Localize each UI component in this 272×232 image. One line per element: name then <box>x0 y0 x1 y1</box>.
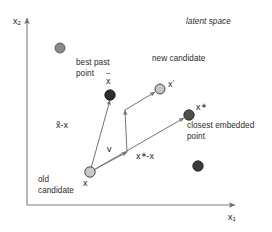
latent-space-diagram: x2 x1 latent space new candidate best pa… <box>0 0 272 232</box>
label-v: v <box>107 144 112 154</box>
point-x-old-candidate <box>85 167 95 177</box>
label-x: x <box>83 178 88 188</box>
annotation-best-past-point: best past point <box>76 58 110 79</box>
vector-x-tilde-minus-x <box>90 100 110 172</box>
label-x-star-minus-x: x∗-x <box>136 151 154 161</box>
annotation-new-candidate: new candidate <box>152 54 205 65</box>
label-x-tilde: ~x <box>106 76 111 86</box>
point-x-prime-new-candidate <box>155 84 165 94</box>
annotation-old-candidate: old candidate <box>38 175 74 196</box>
label-x-tilde-minus-x: x̃-x <box>56 120 68 130</box>
y-axis-label-sub: 2 <box>18 19 21 26</box>
annotation-closest-embedded-point: closest embedded point <box>187 121 254 142</box>
y-axis-label: x2 <box>13 16 21 26</box>
vector-v-transported <box>125 110 127 152</box>
label-x-star: x∗ <box>196 102 207 112</box>
x-star-minus-x-tail: -x <box>147 151 155 161</box>
point-scatter-lower-right <box>193 161 203 171</box>
vector-v-at-x <box>90 152 127 172</box>
point-x-star-closest-embedded <box>184 110 194 120</box>
label-x-prime: x′ <box>168 79 174 89</box>
star-accent-icon: ∗ <box>201 102 207 109</box>
diagram-canvas <box>0 0 272 232</box>
annotation-latent-space: latent space <box>186 17 231 28</box>
point-x-tilde-best-past <box>105 90 115 100</box>
vector-transported-to-x-prime <box>125 92 155 110</box>
prime-accent-icon: ′ <box>173 79 174 86</box>
tilde-accent-icon: ~ <box>106 70 111 78</box>
x-axis-label-sub: 1 <box>233 215 236 222</box>
x-axis-label: x1 <box>228 212 236 222</box>
point-scatter-upper-left <box>55 43 65 53</box>
